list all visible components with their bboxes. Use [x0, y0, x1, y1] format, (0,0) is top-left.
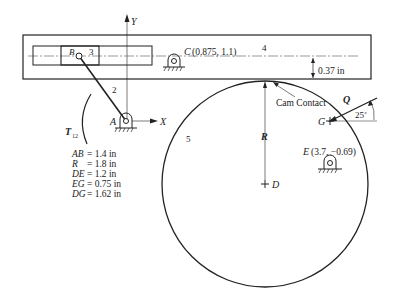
point-e-label: E	[302, 146, 309, 157]
dim-name-de: DE	[71, 169, 85, 179]
x-axis-label: X	[159, 116, 167, 127]
point-g-label: G	[318, 116, 325, 127]
radius-label: R	[260, 131, 268, 142]
cam-center-d	[261, 180, 269, 188]
ground-pivot-c	[163, 54, 185, 71]
dim-name-ab: AB	[71, 149, 84, 159]
dim-value-de: = 1.2 in	[87, 169, 117, 179]
x-axis: X	[132, 116, 167, 127]
dim-value-dg: = 1.62 in	[87, 189, 121, 199]
link2-crank	[79, 56, 126, 121]
link3-label: 3	[89, 47, 94, 57]
mechanism-diagram: Y 4 B 3 2 A X T 12	[0, 0, 399, 306]
dim-value-ab: = 1.4 in	[87, 149, 117, 159]
radius-dimension: R	[260, 81, 268, 180]
dim-value-r: = 1.8 in	[87, 159, 117, 169]
point-c-coords: (0.875, 1.1)	[192, 47, 236, 58]
y-axis: Y	[125, 14, 139, 120]
link4-label: 4	[262, 43, 267, 53]
torque-subscript: 12	[72, 133, 78, 139]
point-a-label: A	[109, 116, 117, 127]
torque-symbol: T	[65, 126, 72, 137]
y-axis-label: Y	[131, 16, 138, 27]
force-angle-label: 25˚	[355, 110, 367, 120]
link2-label: 2	[112, 85, 117, 95]
dim-name-dg: DG	[71, 189, 86, 199]
force-q	[328, 98, 377, 122]
point-c-label: C	[184, 46, 191, 57]
point-e-coords: (3.7, −0.69)	[311, 147, 356, 158]
dimension-list: AB = 1.4 in R = 1.8 in DE = 1.2 in EG = …	[71, 149, 121, 199]
dim-name-eg: EG	[71, 179, 85, 189]
cam-contact-label: Cam Contact	[276, 98, 326, 108]
torque-arc-t12	[82, 94, 91, 144]
ground-pivot-e	[318, 155, 342, 173]
offset-dimension: 0.37 in	[311, 58, 345, 78]
dim-name-r: R	[71, 159, 78, 169]
link5-label: 5	[186, 134, 191, 144]
point-d-label: D	[271, 179, 280, 190]
point-b-label: B	[69, 47, 75, 57]
ground-pivot-a	[115, 113, 137, 132]
offset-dimension-label: 0.37 in	[318, 66, 345, 76]
dim-value-eg: = 0.75 in	[87, 179, 121, 189]
force-q-label: Q	[343, 94, 350, 105]
pin-b	[76, 53, 82, 59]
